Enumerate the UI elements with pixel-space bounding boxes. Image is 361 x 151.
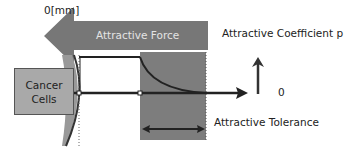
zero-label: 0 xyxy=(278,86,285,98)
attractive-tolerance-label: Attractive Tolerance xyxy=(214,116,319,128)
tolerance-region xyxy=(140,52,206,140)
cancer-label-line2: Cells xyxy=(31,92,56,106)
attractive-force-label: Attractive Force xyxy=(96,29,179,41)
cancer-label-line1: Cancer xyxy=(26,78,63,92)
cancer-cells-box: Cancer Cells xyxy=(14,68,74,115)
origin-label: 0[mm] xyxy=(44,4,79,16)
attractive-coefficient-label: Attractive Coefficient p xyxy=(222,27,343,39)
